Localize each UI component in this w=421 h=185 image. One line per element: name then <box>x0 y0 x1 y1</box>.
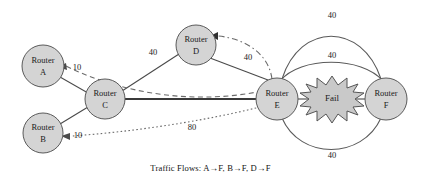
link-c-d <box>122 54 179 91</box>
cost-label-c-d: 40 <box>149 47 158 57</box>
node-router-d-label-bottom: D <box>193 46 199 56</box>
node-router-f-label-top: Router <box>374 88 397 98</box>
node-router-b-label-bottom: B <box>40 134 46 144</box>
cost-label-e-f-top: 40 <box>328 10 337 20</box>
node-router-e-label-bottom: E <box>274 100 279 110</box>
node-router-c-label-bottom: C <box>102 100 108 110</box>
cost-label-d-e: 40 <box>244 52 253 62</box>
node-router-a-label-bottom: A <box>40 67 47 77</box>
node-router-d-label-top: Router <box>184 34 207 44</box>
node-router-c-label-top: Router <box>93 88 116 98</box>
node-router-a[interactable]: Router A <box>22 45 64 87</box>
cost-label-c-e: 80 <box>188 122 197 132</box>
diagram-caption: Traffic Flows: A→F, B→F, D→F <box>0 163 421 173</box>
cost-label-a-flow: 10 <box>73 62 82 72</box>
node-router-e[interactable]: Router E <box>256 78 298 120</box>
node-router-d[interactable]: Router D <box>176 25 216 65</box>
network-diagram: Fail Router A Router B Router C Router <box>0 0 421 185</box>
fail-label: Fail <box>325 93 340 103</box>
cost-label-e-f-mid: 40 <box>328 50 337 60</box>
node-router-b[interactable]: Router B <box>23 113 63 153</box>
node-router-f[interactable]: Router F <box>365 78 407 120</box>
node-router-c[interactable]: Router C <box>85 79 125 119</box>
node-router-b-label-top: Router <box>31 122 54 132</box>
cost-label-b-flow: 10 <box>74 130 83 140</box>
link-d-e <box>210 58 268 80</box>
link-a-c <box>60 77 88 93</box>
node-router-f-label-bottom: F <box>384 100 389 110</box>
fail-marker: Fail <box>300 76 364 123</box>
diagram-canvas: Fail Router A Router B Router C Router <box>0 0 421 185</box>
cost-label-e-f-bottom: 40 <box>328 150 337 160</box>
link-b-c <box>60 107 88 124</box>
node-router-a-label-top: Router <box>31 55 54 65</box>
node-router-e-label-top: Router <box>265 88 288 98</box>
